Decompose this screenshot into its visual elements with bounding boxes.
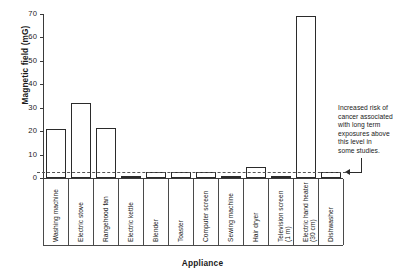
- x-category-label-text: Blender: [152, 219, 159, 242]
- x-category-label: Television screen(1 m): [277, 191, 292, 242]
- x-category-label-text: Sewing machine: [227, 193, 234, 242]
- y-axis-line: [43, 14, 44, 178]
- x-category-label: Sewing machine: [227, 193, 234, 242]
- annotation-arrow-icon: [345, 169, 350, 175]
- x-tick-mark: [68, 179, 69, 245]
- x-category-label-text: Hair dryer: [252, 213, 259, 242]
- y-tick-label: 20: [15, 127, 37, 135]
- y-tick-mark: [40, 108, 43, 109]
- threshold-annotation-text: Increased risk ofcancer associatedwith l…: [338, 104, 400, 156]
- annotation-line: with long term: [338, 121, 400, 130]
- x-category-label: Electric stove: [77, 202, 84, 242]
- annotation-line: exposures above: [338, 130, 400, 139]
- y-tick-label: 70: [15, 10, 37, 18]
- x-category-label: Electric kettle: [127, 202, 134, 242]
- x-category-label-text: Electric stove: [77, 202, 84, 242]
- annotation-leader-horizontal: [350, 172, 362, 173]
- annotation-line: cancer associated: [338, 113, 400, 122]
- y-tick-label: 10: [15, 151, 37, 159]
- annotation-line: Increased risk of: [338, 104, 400, 113]
- x-label-rail: [43, 245, 343, 246]
- x-category-label: Rangehood fan: [102, 196, 109, 242]
- x-category-label: Electric hand heater(30 cm): [302, 182, 317, 242]
- y-tick-label: 50: [15, 57, 37, 65]
- x-axis-title: Appliance: [0, 258, 405, 268]
- y-tick-mark: [40, 131, 43, 132]
- x-category-label: Washing machine: [52, 189, 59, 242]
- x-category-label-text: Electric hand heater: [302, 182, 309, 242]
- x-tick-mark: [318, 179, 319, 245]
- x-category-label-text: Computer screen: [202, 191, 209, 242]
- bar: [296, 16, 316, 178]
- x-tick-mark: [93, 179, 94, 245]
- y-tick-mark: [40, 84, 43, 85]
- y-tick-mark: [40, 14, 43, 15]
- y-tick-mark: [40, 37, 43, 38]
- y-tick-label: 40: [15, 80, 37, 88]
- annotation-leader-vertical: [361, 158, 362, 172]
- x-category-label-text: Electric kettle: [127, 202, 134, 242]
- annotation-line: this level in: [338, 138, 400, 147]
- risk-threshold-line: [37, 172, 351, 173]
- x-tick-mark: [143, 179, 144, 245]
- magnetic-field-bar-chart: Magnetic field (mG) 010203040506070 Wash…: [0, 0, 405, 276]
- y-tick-label: 0: [15, 174, 37, 182]
- x-tick-mark: [218, 179, 219, 245]
- x-category-label: Dishwasher: [327, 207, 334, 242]
- x-category-label-sub: (1 m): [285, 191, 292, 242]
- x-tick-mark: [268, 179, 269, 245]
- x-category-label: Blender: [152, 219, 159, 242]
- bar: [71, 103, 91, 178]
- x-category-label-text: Toaster: [177, 220, 184, 242]
- y-tick-label: 30: [15, 104, 37, 112]
- x-tick-mark: [118, 179, 119, 245]
- x-category-label: Toaster: [177, 220, 184, 242]
- x-category-label-text: Washing machine: [52, 189, 59, 242]
- bar: [46, 129, 66, 178]
- y-axis-title: Magnetic field (mG): [20, 0, 30, 135]
- y-tick-mark: [40, 155, 43, 156]
- x-tick-mark: [193, 179, 194, 245]
- x-tick-mark: [168, 179, 169, 245]
- x-tick-mark: [293, 179, 294, 245]
- x-tick-mark: [243, 179, 244, 245]
- x-category-label-text: Television screen: [277, 191, 284, 242]
- annotation-line: some studies.: [338, 147, 400, 156]
- x-category-label-text: Dishwasher: [327, 207, 334, 242]
- x-category-label: Computer screen: [202, 191, 209, 242]
- bar: [96, 128, 116, 178]
- y-tick-label: 60: [15, 33, 37, 41]
- x-tick-mark: [343, 179, 344, 245]
- y-tick-mark: [40, 61, 43, 62]
- x-category-label-sub: (30 cm): [310, 182, 317, 242]
- x-tick-mark: [43, 179, 44, 245]
- x-category-label: Hair dryer: [252, 213, 259, 242]
- x-category-label-text: Rangehood fan: [102, 196, 109, 242]
